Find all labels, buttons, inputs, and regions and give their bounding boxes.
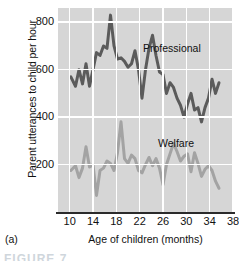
series-label-welfare: Welfare <box>158 137 194 149</box>
x-tick-label: 18 <box>104 215 128 227</box>
gridline-horizontal <box>58 164 233 166</box>
series-label-professional: Professional <box>143 42 201 54</box>
gridline-horizontal <box>58 69 233 71</box>
y-tick-label: 600 <box>0 63 54 75</box>
plot-area <box>58 8 233 212</box>
panel-letter: (a) <box>5 233 18 245</box>
x-tick-label: 26 <box>151 215 175 227</box>
x-axis-line <box>56 212 235 214</box>
gridline-vertical <box>232 8 234 212</box>
gridline-horizontal <box>58 116 233 118</box>
gridline-vertical <box>139 8 141 212</box>
y-tick-label: 800 <box>0 15 54 27</box>
gridline-vertical <box>69 8 71 212</box>
gridline-vertical <box>209 8 211 212</box>
x-tick-label: 30 <box>174 215 198 227</box>
x-tick-label: 22 <box>128 215 152 227</box>
y-tick-label: 200 <box>0 158 54 170</box>
x-axis-label: Age of children (months) <box>58 233 233 245</box>
gridline-vertical <box>92 8 94 212</box>
gridline-vertical <box>162 8 164 212</box>
x-axis-ticks: 1014182226303438 <box>0 215 239 229</box>
y-tick-label: 400 <box>0 110 54 122</box>
gridline-vertical <box>116 8 118 212</box>
figure-panel-a: Parent utterances to child per hour 2004… <box>0 0 239 261</box>
x-tick-label: 38 <box>221 215 239 227</box>
caption-remnant: FIGURE 7 <box>4 252 67 261</box>
x-tick-label: 14 <box>81 215 105 227</box>
gridline-horizontal <box>58 21 233 23</box>
gridline-vertical <box>186 8 188 212</box>
x-tick-label: 10 <box>58 215 82 227</box>
x-tick-label: 34 <box>198 215 222 227</box>
series-canvas <box>58 8 233 212</box>
